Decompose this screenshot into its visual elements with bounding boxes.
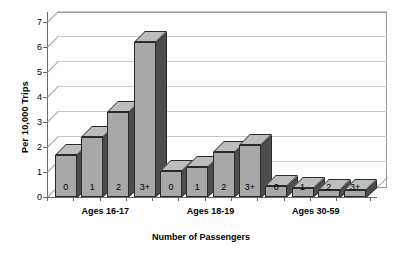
group-label: Ages 30-59 <box>246 206 386 216</box>
y-axis-title: Per 10,000 Trips <box>20 47 30 187</box>
gridline <box>57 86 387 87</box>
y-axis-tick-mark <box>43 72 47 73</box>
gridline <box>57 61 387 62</box>
y-axis-tick-label: 6 <box>37 42 42 52</box>
y-axis-tick-mark <box>43 172 47 173</box>
x-axis-tick-mark <box>73 197 74 201</box>
x-axis-line <box>47 197 377 198</box>
bar-front-face <box>134 42 156 197</box>
x-axis-tick-label: 3+ <box>338 182 372 192</box>
y-axis-tick-label: 1 <box>37 167 42 177</box>
y-axis-tick-label: 5 <box>37 67 42 77</box>
y-axis-tick-label: 4 <box>37 92 42 102</box>
x-axis-tick-mark <box>178 197 179 201</box>
gridline <box>57 11 387 12</box>
x-axis-tick-mark <box>205 197 206 201</box>
y-axis-tick-mark <box>43 47 47 48</box>
y-axis-tick-label: 7 <box>37 17 42 27</box>
x-axis-tick-mark <box>47 197 48 201</box>
x-axis-tick-mark <box>336 197 337 201</box>
x-axis-tick-mark <box>370 197 371 201</box>
bar <box>134 42 156 197</box>
x-axis-tick-mark <box>231 197 232 201</box>
gridline <box>57 36 387 37</box>
y-axis-tick-label: 2 <box>37 142 42 152</box>
y-axis-tick-mark <box>43 97 47 98</box>
x-axis-tick-mark <box>152 197 153 201</box>
x-axis-title: Number of Passengers <box>0 232 402 242</box>
x-axis-tick-mark <box>257 197 258 201</box>
y-axis-tick-label: 3 <box>37 117 42 127</box>
y-axis-tick-label: 0 <box>37 192 42 202</box>
y-axis-tick-mark <box>43 22 47 23</box>
x-axis-tick-mark <box>126 197 127 201</box>
x-axis-tick-mark <box>310 197 311 201</box>
y-axis-tick-mark <box>43 147 47 148</box>
y-axis-tick-mark <box>43 122 47 123</box>
bar-chart: Per 10,000 Trips 01234567 0123+0123+0123… <box>0 0 402 263</box>
plot-area: 01234567 <box>47 22 377 197</box>
x-axis-tick-mark <box>100 197 101 201</box>
x-axis-tick-mark <box>284 197 285 201</box>
